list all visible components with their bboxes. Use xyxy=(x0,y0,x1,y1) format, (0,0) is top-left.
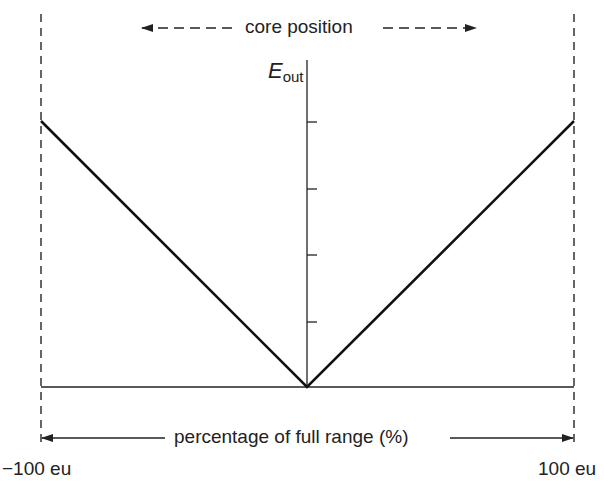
right-limit-label: 100 eu xyxy=(538,458,596,480)
y-axis-label: Eout xyxy=(268,58,304,85)
y-axis-label-sub: out xyxy=(283,68,304,85)
left-limit-label: −100 eu xyxy=(2,458,71,480)
y-axis-label-main: E xyxy=(268,58,283,83)
x-axis-label: percentage of full range (%) xyxy=(174,426,408,448)
core-position-label: core position xyxy=(245,16,353,38)
